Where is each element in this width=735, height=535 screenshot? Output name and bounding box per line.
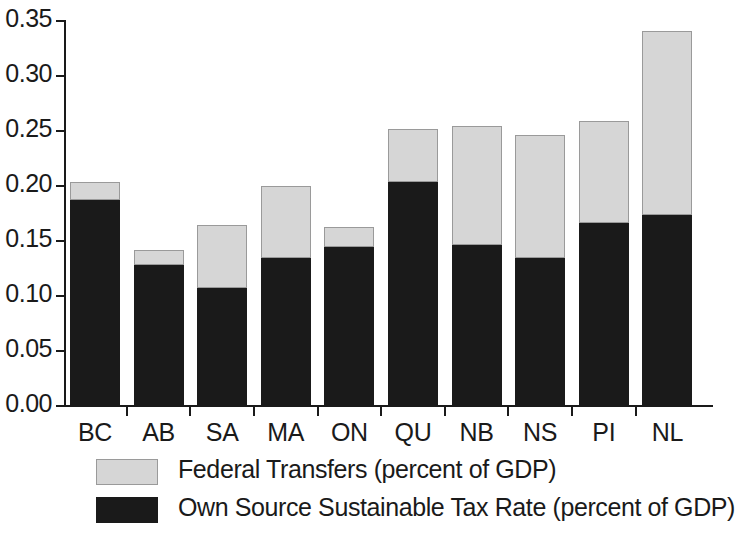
x-axis-label-nb: NB	[452, 418, 502, 447]
bar-segment-own-source-tax	[134, 265, 184, 406]
y-axis-tick-label: 0.25	[5, 114, 52, 143]
x-axis-tick	[635, 407, 637, 416]
bar-segment-own-source-tax	[515, 258, 565, 407]
bar-segment-federal-transfers	[134, 250, 184, 265]
bar-segment-federal-transfers	[324, 227, 374, 247]
x-axis-label-on: ON	[324, 418, 374, 447]
x-axis-label-bc: BC	[70, 418, 120, 447]
bar-nb	[452, 126, 502, 407]
bar-segment-own-source-tax	[388, 182, 438, 406]
y-axis-tick	[56, 20, 65, 22]
bar-segment-own-source-tax	[261, 258, 311, 407]
bar-segment-federal-transfers	[388, 129, 438, 182]
y-axis-tick	[56, 185, 65, 187]
y-axis-tick	[56, 240, 65, 242]
x-axis-label-ab: AB	[134, 418, 184, 447]
bar-segment-federal-transfers	[261, 186, 311, 258]
bar-ma	[261, 186, 311, 406]
y-axis-tick-label: 0.10	[5, 279, 52, 308]
x-axis-tick	[507, 407, 509, 416]
bar-segment-federal-transfers	[579, 121, 629, 223]
y-axis-tick	[56, 405, 65, 407]
bar-ab	[134, 250, 184, 406]
y-axis-tick	[56, 295, 65, 297]
legend-label: Federal Transfers (percent of GDP)	[178, 455, 556, 484]
chart-legend: Federal Transfers (percent of GDP)Own So…	[96, 455, 716, 531]
x-axis-label-pi: PI	[579, 418, 629, 447]
y-axis-tick-label: 0.05	[5, 334, 52, 363]
y-axis-tick-labels: 0.350.300.250.200.150.100.050.00	[0, 0, 52, 535]
y-axis-tick-label: 0.15	[5, 224, 52, 253]
x-axis-tick	[444, 407, 446, 416]
y-axis-tick-label: 0.00	[5, 389, 52, 418]
bar-nl	[642, 31, 692, 406]
bar-segment-own-source-tax	[324, 247, 374, 407]
y-axis-tick	[56, 75, 65, 77]
x-axis-label-qu: QU	[388, 418, 438, 447]
y-axis-tick	[56, 130, 65, 132]
x-axis-label-ma: MA	[261, 418, 311, 447]
bar-on	[324, 227, 374, 406]
x-axis-label-nl: NL	[642, 418, 692, 447]
y-axis-tick-label: 0.30	[5, 59, 52, 88]
plot-area	[66, 21, 713, 406]
bar-segment-own-source-tax	[70, 200, 120, 406]
x-axis-label-sa: SA	[197, 418, 247, 447]
bar-segment-own-source-tax	[642, 215, 692, 406]
bar-qu	[388, 129, 438, 406]
bar-segment-own-source-tax	[579, 223, 629, 406]
legend-item: Federal Transfers (percent of GDP)	[96, 455, 716, 493]
bar-segment-federal-transfers	[642, 31, 692, 215]
legend-item: Own Source Sustainable Tax Rate (percent…	[96, 493, 716, 531]
bar-segment-federal-transfers	[515, 135, 565, 257]
legend-swatch-federal	[96, 459, 158, 485]
bar-segment-federal-transfers	[70, 182, 120, 201]
x-axis-tick	[571, 407, 573, 416]
bar-segment-own-source-tax	[197, 288, 247, 406]
bar-bc	[70, 182, 120, 406]
x-axis-label-ns: NS	[515, 418, 565, 447]
x-axis-tick	[253, 407, 255, 416]
bar-segment-federal-transfers	[452, 126, 502, 246]
x-axis-tick	[380, 407, 382, 416]
legend-swatch-own	[96, 497, 158, 523]
x-axis-tick	[317, 407, 319, 416]
x-axis-tick	[189, 407, 191, 416]
y-axis-tick-label: 0.35	[5, 4, 52, 33]
y-axis-tick-label: 0.20	[5, 169, 52, 198]
bar-segment-federal-transfers	[197, 225, 247, 289]
legend-label: Own Source Sustainable Tax Rate (percent…	[178, 493, 735, 522]
bar-ns	[515, 135, 565, 406]
bar-pi	[579, 121, 629, 406]
bar-segment-own-source-tax	[452, 245, 502, 406]
bar-sa	[197, 225, 247, 407]
x-axis-tick	[126, 407, 128, 416]
y-axis-tick	[56, 350, 65, 352]
